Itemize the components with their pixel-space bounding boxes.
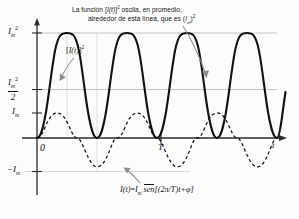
sine-curve [37,113,277,167]
sine-equation-label: I(t)=Im sen[(2π/T)t+φ] [120,186,194,196]
eq-argument: [(2π/T)t+φ] [154,185,193,194]
y-tick-negim-sub: m [16,170,20,176]
fraction-denominator: 2 [8,93,18,102]
y-tick-label-negative-im: −Im [7,165,20,176]
origin-label: 0 [40,143,45,153]
y-tick-im-sub: m [15,112,19,118]
caption-line1-pre: La función [ [72,6,107,13]
y-axis-arrow [34,18,40,26]
sq-label-sup: 2 [82,44,85,50]
caption-line2-pre: alrededor de esta línea, que es ( [88,15,185,22]
sq-label-var: I(t) [69,46,79,55]
y-tick-label-im-squared-half: Im2 2 [8,76,18,102]
x-axis-label: t [272,141,275,150]
caption-line-2: alrededor de esta línea, que es (Ief)2 [88,14,195,25]
y-tick-label-im-squared: Im2 [8,25,18,38]
caption-line1-var: I(t) [107,6,115,13]
y-tick-label-im: Im [12,107,19,118]
callout-arrow-sine [127,170,140,183]
caption-line2-sup: 2 [193,14,196,19]
fraction-numerator: Im2 [8,76,18,90]
caption-line1-post: oscila, en promedio, [120,6,182,13]
x-axis-arrow [279,135,287,141]
eq-amp-sub: m [138,190,142,196]
waveform-figure: La función [I(t)]2 oscila, en promedio, … [0,0,299,219]
frac-num-sup: 2 [15,76,18,82]
eq-function: sen [144,184,155,194]
squared-curve-label: [I(t)]2 [66,45,84,55]
frac-num-sub: m [11,83,15,89]
y-tick-im2-sub: m [11,32,15,38]
y-tick-im2-sup: 2 [15,25,18,31]
fraction: Im2 2 [8,76,18,102]
x-tick-label-period: T [158,143,163,152]
eq-lhs: I(t) [120,185,130,194]
callout-arrow-squared [62,58,74,76]
